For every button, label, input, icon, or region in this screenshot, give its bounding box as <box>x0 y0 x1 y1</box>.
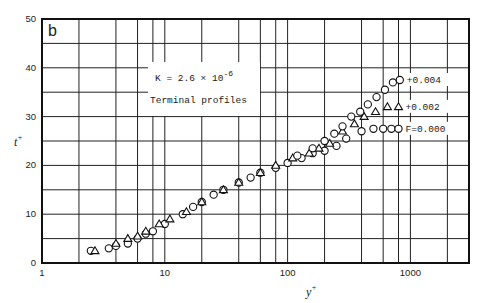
data-point-0004 <box>331 130 338 137</box>
data-point-F0000 <box>190 203 197 210</box>
x-tick-labels: 1101001000 <box>39 267 421 278</box>
x-tick-label: 10 <box>160 267 171 278</box>
data-point-0004 <box>294 152 301 159</box>
grid-lines <box>42 19 469 263</box>
data-point-F0000 <box>343 135 350 142</box>
y-tick-label: 0 <box>31 257 36 268</box>
data-point-0002 <box>166 215 174 222</box>
data-point-F0000 <box>370 125 377 132</box>
data-point-F0000 <box>105 245 112 252</box>
series-label: +0.004 <box>407 75 442 86</box>
y-tick-label: 40 <box>25 62 36 73</box>
data-point-F0000 <box>149 228 156 235</box>
data-point-0004 <box>348 113 355 120</box>
data-point-0002 <box>372 108 380 115</box>
y-tick-label: 20 <box>25 159 36 170</box>
data-point-0002 <box>383 103 391 110</box>
y-tick-label: 50 <box>25 13 36 24</box>
data-point-0004 <box>381 86 388 93</box>
data-point-0004 <box>389 79 396 86</box>
y-tick-label: 10 <box>25 208 36 219</box>
data-point-0002 <box>395 103 403 110</box>
chart: b 01020304050 1101001000 t+ y+ K = 2.6 ×… <box>0 0 481 303</box>
data-point-0002 <box>124 235 132 242</box>
x-tick-label: 1000 <box>400 267 421 278</box>
data-point-0002 <box>350 120 358 127</box>
data-point-0004 <box>396 76 403 83</box>
y-axis-label: t+ <box>14 133 23 149</box>
annotation-background <box>148 62 260 116</box>
y-tick-labels: 01020304050 <box>25 13 36 268</box>
data-point-F0000 <box>395 125 402 132</box>
data-point-F0000 <box>247 174 254 181</box>
x-tick-label: 1 <box>39 267 44 278</box>
data-point-F0000 <box>388 125 395 132</box>
data-point-0004 <box>321 137 328 144</box>
data-point-F0000 <box>358 128 365 135</box>
series-labels: F=0.000+0.002+0.004 <box>406 75 446 135</box>
series-label: F=0.000 <box>406 124 446 135</box>
x-axis-label: y+ <box>305 283 317 299</box>
annotation-terminal-profiles: Terminal profiles <box>150 95 247 106</box>
data-point-0004 <box>339 123 346 130</box>
data-point-0004 <box>364 101 371 108</box>
series-label: +0.002 <box>406 102 441 113</box>
data-point-0004 <box>357 108 364 115</box>
y-tick-label: 30 <box>25 111 36 122</box>
data-point-0004 <box>309 145 316 152</box>
x-tick-label: 100 <box>280 267 296 278</box>
data-point-0004 <box>373 93 380 100</box>
data-point-F0000 <box>380 125 387 132</box>
panel-label: b <box>48 22 57 39</box>
data-point-F0000 <box>210 191 217 198</box>
